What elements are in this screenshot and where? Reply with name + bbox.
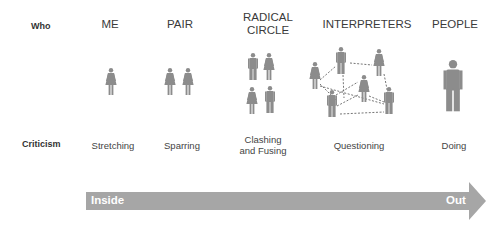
man-icon (336, 47, 346, 74)
stage-interpreters-figures (309, 47, 394, 117)
arrow-end-label: Out (446, 194, 466, 206)
man-icon (327, 90, 337, 117)
woman-icon (309, 62, 320, 89)
man-icon-large (444, 60, 463, 111)
woman-icon (105, 68, 116, 95)
inside-out-arrow (86, 182, 486, 220)
woman-icon (358, 75, 369, 102)
woman-icon (373, 49, 384, 76)
stage-pair-criticism: Sparring (152, 140, 212, 151)
stage-pair-figures (164, 68, 193, 95)
stage-radical-circle-figures (246, 53, 275, 114)
woman-icon (246, 87, 257, 114)
woman-icon (263, 53, 274, 80)
stage-me-criticism: Stretching (83, 140, 143, 151)
stage-me-figures (105, 68, 116, 95)
man-icon (384, 87, 394, 114)
man-icon (248, 53, 258, 80)
figures-diagram (0, 0, 497, 227)
woman-icon (182, 68, 193, 95)
stage-radical-circle-criticism-line2: and Fusing (233, 145, 293, 156)
stage-radical-circle-criticism: Clashing and Fusing (233, 134, 293, 156)
woman-icon (164, 68, 175, 95)
arrow-start-label: Inside (91, 194, 124, 206)
stage-radical-circle-criticism-line1: Clashing (233, 134, 293, 145)
man-icon (265, 86, 275, 113)
stage-people-criticism: Doing (428, 140, 480, 151)
stage-interpreters-criticism: Questioning (324, 140, 394, 151)
stage-people-figures (444, 60, 463, 111)
